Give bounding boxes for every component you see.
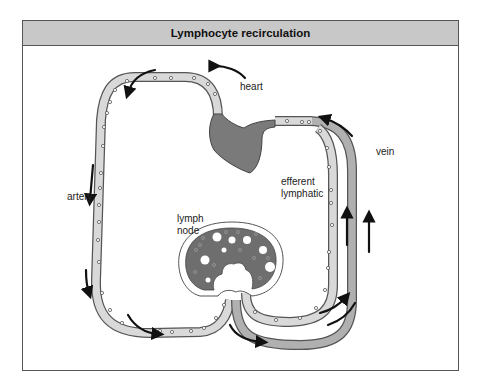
artery-label: artery	[67, 191, 93, 202]
arrow-icon	[215, 66, 245, 78]
efferent-lymphatic-label-1: efferent	[281, 176, 315, 187]
vein-label: vein	[376, 146, 394, 157]
heart-label: heart	[240, 81, 263, 92]
lymph-node-label-1: lymph	[177, 213, 204, 224]
arrow-icon	[86, 270, 89, 293]
efferent-lymphatic-label-2: lymphatic	[281, 188, 323, 199]
heart-shape	[210, 114, 276, 173]
lymph-node-label-2: node	[177, 225, 200, 236]
recirculation-diagram: heart artery vein efferent lymphatic lym…	[0, 0, 480, 384]
